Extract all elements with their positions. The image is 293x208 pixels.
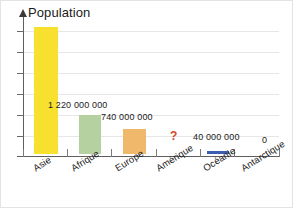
cat-amerique: Amérique xyxy=(154,142,195,173)
label-afrique: 1 220 000 000 xyxy=(48,100,108,110)
x-tick-1 xyxy=(67,149,68,157)
x-tick-3 xyxy=(156,149,157,157)
y-tick-1 xyxy=(17,52,24,53)
y-tick-0 xyxy=(17,31,24,32)
x-tick-2 xyxy=(111,149,112,157)
gridline-0 xyxy=(23,31,279,32)
y-axis-arrow-icon xyxy=(19,9,27,17)
bar-afrique[interactable] xyxy=(79,115,101,154)
x-tick-4 xyxy=(200,149,201,157)
bar-asie[interactable] xyxy=(34,27,58,154)
label-europe: 740 000 000 xyxy=(101,112,153,122)
y-axis-title: Population xyxy=(28,5,90,20)
gridline-3 xyxy=(23,94,279,95)
label-antarctique: 0 xyxy=(262,135,267,145)
population-bar-chart: Population 1 220 000 000740 000 000?40 0… xyxy=(0,0,293,208)
x-tick-0 xyxy=(23,149,24,157)
y-tick-5 xyxy=(17,136,24,137)
y-tick-3 xyxy=(17,94,24,95)
y-tick-4 xyxy=(17,115,24,116)
label-amerique: ? xyxy=(170,129,177,143)
x-axis-line xyxy=(17,156,279,157)
label-oceanie: 40 000 000 xyxy=(193,132,240,142)
gridline-5 xyxy=(23,136,279,137)
gridline-1 xyxy=(23,52,279,53)
y-tick-2 xyxy=(17,73,24,74)
gridline-2 xyxy=(23,73,279,74)
cat-oceanie: Océanie xyxy=(201,145,237,173)
